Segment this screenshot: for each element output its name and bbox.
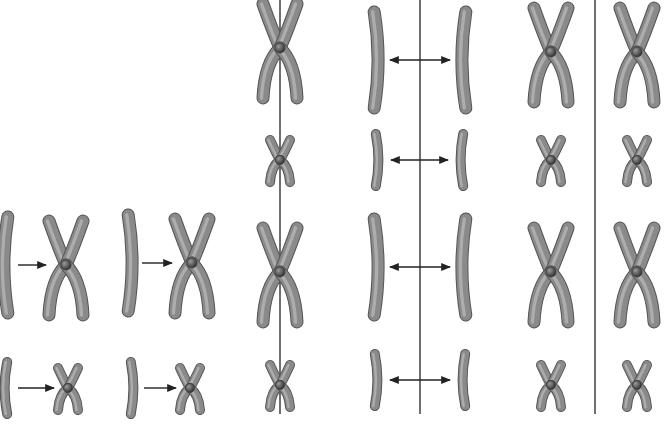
daughter-chromosome: [540, 365, 562, 407]
centromere: [546, 267, 556, 277]
centromere: [276, 381, 285, 390]
centromere: [187, 258, 197, 268]
unreplicated-chromosome: [2, 217, 7, 313]
diagram-canvas: [0, 0, 664, 427]
centromere: [632, 267, 642, 277]
separated-chromatid-left: [373, 354, 377, 406]
centromere: [633, 381, 642, 390]
separated-chromatid-right: [460, 12, 465, 108]
replicated-chromosome: [174, 219, 210, 313]
daughter-chromosome: [626, 140, 648, 182]
unreplicated-chromosome: [129, 362, 133, 414]
centromere: [547, 156, 556, 165]
centromere: [275, 43, 285, 53]
aligned-chromosome: [262, 4, 298, 98]
daughter-chromosome: [533, 8, 569, 102]
centromere: [275, 267, 285, 277]
separated-chromatid-right: [460, 219, 465, 315]
replicated-chromosome: [48, 221, 84, 315]
centromere: [61, 260, 71, 270]
aligned-chromosome: [269, 140, 291, 182]
centromere: [276, 156, 285, 165]
chromosomes: [2, 4, 654, 414]
centromere: [64, 384, 73, 393]
daughter-chromosome: [626, 365, 648, 407]
separated-chromatid-right: [459, 134, 463, 186]
centromere: [633, 156, 642, 165]
aligned-chromosome: [269, 365, 291, 407]
replicated-chromosome: [179, 368, 201, 410]
centromere: [547, 381, 556, 390]
replicated-chromosome: [57, 368, 79, 410]
unreplicated-chromosome: [127, 215, 132, 311]
separated-chromatid-left: [373, 12, 378, 108]
daughter-chromosome: [540, 140, 562, 182]
centromere: [632, 47, 642, 57]
daughter-chromosome: [533, 228, 569, 322]
daughter-chromosome: [619, 8, 655, 102]
separated-chromatid-left: [373, 219, 378, 315]
daughter-chromosome: [619, 228, 655, 322]
centromere: [186, 384, 195, 393]
chromosome-diagram: [0, 0, 664, 427]
separated-chromatid-right: [461, 354, 465, 406]
centromere: [546, 47, 556, 57]
unreplicated-chromosome: [3, 362, 7, 414]
aligned-chromosome: [262, 228, 298, 322]
separated-chromatid-left: [374, 134, 378, 186]
